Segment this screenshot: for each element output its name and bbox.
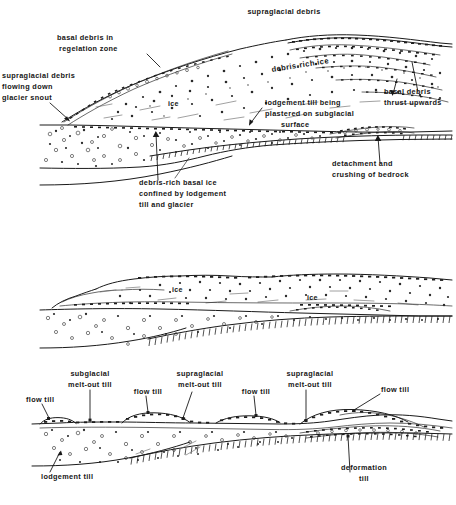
label-supraglacial-meltout-b-line2: melt-out till	[288, 380, 332, 389]
label-deformation-till-line2: till	[359, 474, 369, 483]
label-lodgement-till-bottom: lodgement till	[41, 472, 93, 481]
label-ice-middle-left: ice	[172, 286, 183, 294]
label-subglacial-meltout-line1: subglacial	[70, 369, 109, 378]
label-subglacial-meltout-line2: melt-out till	[68, 380, 112, 389]
label-flow-till-1: flow till	[26, 395, 54, 404]
label-ice-top: ice	[168, 100, 179, 108]
label-flow-till-3: flow till	[242, 387, 270, 396]
glacial-diagram-figure: supraglacial debris basal debris in rege…	[0, 0, 456, 505]
label-flow-till-2: flow till	[134, 387, 162, 396]
label-basal-debris-regelation-line1: basal debris in	[57, 33, 113, 42]
diagram-canvas: supraglacial debris basal debris in rege…	[0, 0, 456, 505]
label-supraglacial-meltout-a-line1: supraglacial	[177, 369, 224, 378]
label-ice-middle-right: ice	[307, 294, 318, 302]
label-lodgement-till-line3: surface	[281, 120, 309, 129]
label-basal-debris-regelation-line2: regelation zone	[59, 44, 118, 53]
label-detachment-line1: detachment and	[332, 159, 393, 168]
label-basal-debris-thrust-line2: thrust upwards	[384, 98, 442, 107]
label-debris-rich-basal-line1: debris-rich basal ice	[139, 178, 217, 187]
label-supraglacial-flowing-line2: flowing down	[2, 82, 53, 91]
label-deformation-till-line1: deformation	[341, 463, 387, 472]
label-basal-debris-thrust-line1: basal debris	[384, 87, 431, 96]
label-flow-till-4: flow till	[381, 385, 409, 394]
label-lodgement-till-line1: lodgement till being	[265, 98, 341, 107]
label-supraglacial-debris-top: supraglacial debris	[247, 7, 320, 16]
label-supraglacial-flowing-line3: glacier snout	[2, 93, 52, 102]
label-supraglacial-flowing-line1: supraglacial debris	[2, 71, 75, 80]
label-supraglacial-meltout-a-line2: melt-out till	[178, 380, 222, 389]
label-detachment-line2: crushing of bedrock	[332, 170, 409, 179]
label-debris-rich-basal-line2: confined by lodgement	[139, 189, 226, 198]
label-lodgement-till-line2: plastered on subglacial	[265, 109, 354, 118]
label-supraglacial-meltout-b-line1: supraglacial	[287, 369, 334, 378]
label-debris-rich-basal-line3: till and glacier	[139, 200, 194, 209]
